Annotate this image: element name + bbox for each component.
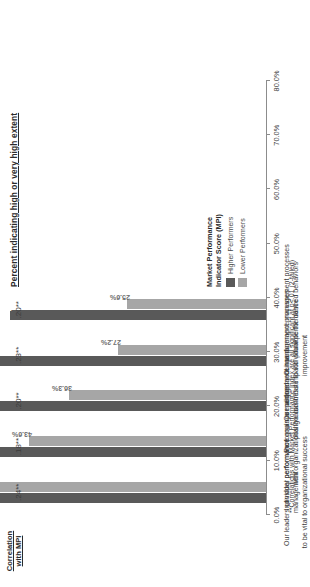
axis-tick-label: 60.0% bbox=[272, 179, 281, 200]
legend-label-lower-performers: Lower Performers bbox=[239, 218, 246, 274]
axis-tick bbox=[266, 406, 270, 407]
chart-legend: Market PerformanceIndicator Score (MPI) … bbox=[206, 137, 247, 287]
correlation-value: .24** bbox=[14, 484, 23, 501]
axis-tick-label: 50.0% bbox=[272, 233, 281, 254]
axis-tick bbox=[266, 243, 270, 244]
correlation-value: .23** bbox=[14, 347, 23, 364]
chart-stage: Percent indicating high or very high ext… bbox=[0, 0, 303, 587]
axis-tick bbox=[266, 514, 270, 515]
axis-tick-label: 30.0% bbox=[272, 342, 281, 363]
legend-item-higher-performers: Higher Performers bbox=[226, 137, 235, 287]
category-label: Our performance management processes pro… bbox=[283, 235, 301, 385]
axis-tick bbox=[266, 351, 270, 352]
value-axis-ticks: 0.0%10.0%20.0%30.0%40.0%50.0%60.0%70.0%8… bbox=[0, 0, 303, 587]
axis-tick-label: 40.0% bbox=[272, 288, 281, 309]
correlation-value: .20** bbox=[14, 392, 23, 409]
legend-swatch-higher-performers bbox=[226, 278, 235, 287]
bar-chart-figure: Percent indicating high or very high ext… bbox=[0, 0, 303, 587]
axis-tick bbox=[266, 80, 270, 81]
axis-tick bbox=[266, 189, 270, 190]
axis-tick bbox=[266, 134, 270, 135]
legend-swatch-lower-performers bbox=[238, 278, 247, 287]
axis-tick-label: 10.0% bbox=[272, 450, 281, 471]
axis-tick-label: 20.0% bbox=[272, 396, 281, 417]
axis-tick bbox=[266, 297, 270, 298]
axis-tick-label: 80.0% bbox=[272, 71, 281, 92]
legend-item-lower-performers: Lower Performers bbox=[238, 137, 247, 287]
axis-tick bbox=[266, 460, 270, 461]
correlation-value: .18** bbox=[14, 438, 23, 455]
axis-tick-label: 0.0% bbox=[272, 507, 281, 524]
axis-tick-label: 70.0% bbox=[272, 125, 281, 146]
correlation-value: .20** bbox=[14, 301, 23, 318]
legend-label-higher-performers: Higher Performers bbox=[227, 217, 234, 274]
legend-title: Market PerformanceIndicator Score (MPI) bbox=[206, 137, 223, 287]
